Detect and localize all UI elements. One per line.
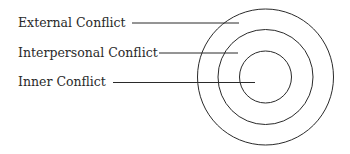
label-external-conflict: External Conflict (18, 16, 126, 30)
inner-circle (240, 51, 292, 103)
middle-circle (218, 30, 313, 125)
label-interpersonal-conflict: Interpersonal Conflict (18, 46, 158, 60)
conflict-diagram: External Conflict Interpersonal Conflict… (0, 0, 350, 154)
label-inner-conflict: Inner Conflict (18, 75, 106, 89)
